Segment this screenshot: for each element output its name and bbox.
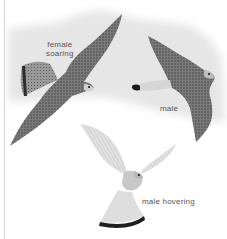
left-border-line (4, 0, 5, 239)
label-male-hovering: male hovering (142, 197, 195, 206)
male-hovering-bird (80, 124, 176, 228)
label-male: male (160, 104, 178, 113)
label-female-soaring: female soaring (46, 40, 74, 58)
kestrel-illustration: female soaring male male hovering (0, 0, 227, 239)
label-female-line1: female (46, 40, 74, 49)
label-female-line2: soaring (46, 49, 74, 58)
